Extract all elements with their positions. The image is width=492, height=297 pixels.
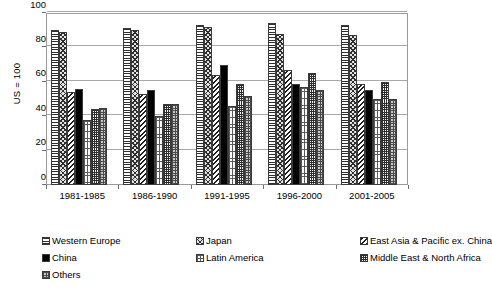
gridlines-layer: [47, 14, 407, 184]
legend-item[interactable]: Others: [42, 269, 196, 280]
legend-swatch-icon: [42, 237, 50, 245]
legend-item[interactable]: Japan: [196, 235, 360, 246]
x-axis-tick-label: 2001-2005: [336, 190, 408, 201]
y-axis-tick-label: 100: [6, 0, 46, 9]
legend-swatch-icon: [196, 254, 204, 262]
y-axis-tick-label: 20: [6, 137, 46, 147]
y-axis-tick-label: 80: [6, 33, 46, 43]
x-axis-tick-mark: [408, 185, 409, 189]
legend-item[interactable]: China: [42, 252, 196, 263]
plot-area: [46, 13, 408, 185]
legend-item-label: Middle East & North Africa: [370, 252, 481, 263]
legend-item[interactable]: Western Europe: [42, 235, 196, 246]
x-axis-tick-mark: [263, 185, 264, 189]
gridline: [47, 114, 407, 115]
x-axis-labels: 1981-19851986-19901991-19951996-20002001…: [46, 190, 408, 201]
y-axis-tick-group: 020406080100: [0, 13, 46, 185]
legend-swatch-icon: [360, 254, 368, 262]
gridline: [47, 149, 407, 150]
gridline: [47, 11, 407, 12]
x-axis-tick-label: 1996-2000: [263, 190, 335, 201]
legend-item[interactable]: Latin America: [196, 252, 360, 263]
gridline: [47, 80, 407, 81]
legend-item-label: China: [52, 252, 77, 263]
legend-item-label: Western Europe: [52, 235, 120, 246]
legend-item-label: Latin America: [206, 252, 264, 263]
x-axis-tick-mark: [118, 185, 119, 189]
x-axis-tick-group: [46, 185, 408, 189]
legend-swatch-icon: [196, 237, 204, 245]
y-axis-tick-label: 0: [6, 171, 46, 181]
y-axis-tick-label: 60: [6, 68, 46, 78]
legend-swatch-icon: [360, 237, 368, 245]
x-axis-tick-label: 1981-1985: [46, 190, 118, 201]
legend-item-label: East Asia & Pacific ex. China: [370, 235, 492, 246]
legend-item-label: Others: [52, 269, 81, 280]
x-axis-tick-mark: [191, 185, 192, 189]
legend-item[interactable]: East Asia & Pacific ex. China: [360, 235, 492, 246]
legend-swatch-icon: [42, 254, 50, 262]
chart-legend: Western EuropeJapanEast Asia & Pacific e…: [42, 232, 440, 283]
y-axis-tick-label: 40: [6, 102, 46, 112]
x-axis-tick-label: 1991-1995: [191, 190, 263, 201]
gridline: [47, 45, 407, 46]
x-axis-tick-label: 1986-1990: [118, 190, 190, 201]
x-axis-tick-mark: [46, 185, 47, 189]
legend-swatch-icon: [42, 271, 50, 279]
legend-item-label: Japan: [206, 235, 232, 246]
legend-item[interactable]: Middle East & North Africa: [360, 252, 492, 263]
x-axis-tick-mark: [336, 185, 337, 189]
